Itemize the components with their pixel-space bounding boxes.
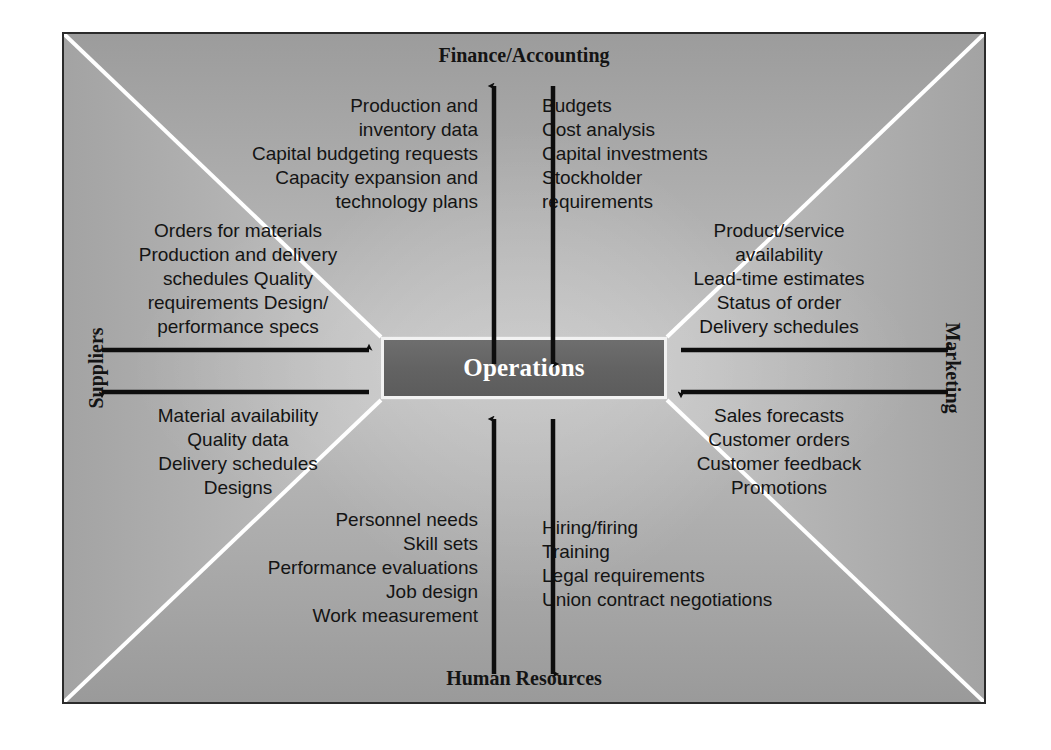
flow-text-marketing-to-operations: Sales forecasts Customer orders Customer… — [624, 404, 934, 500]
diagram-canvas: Operations Finance/Accounting Human Reso… — [0, 0, 1051, 750]
flow-text-suppliers-to-operations: Orders for materials Production and deli… — [90, 219, 386, 339]
flow-text-finance-to-operations: Budgets Cost analysis Capital investment… — [542, 94, 842, 214]
heading-human-resources: Human Resources — [64, 667, 984, 690]
operations-interfaces-diagram: Operations Finance/Accounting Human Reso… — [62, 32, 986, 704]
flow-text-hr-to-operations: Hiring/firing Training Legal requirement… — [542, 516, 872, 612]
heading-finance-accounting: Finance/Accounting — [64, 44, 984, 67]
flow-text-operations-to-marketing: Product/service availability Lead-time e… — [624, 219, 934, 339]
flow-text-operations-to-finance: Production and inventory data Capital bu… — [182, 94, 478, 214]
heading-marketing: Marketing — [941, 288, 964, 448]
flow-text-operations-to-suppliers: Material availability Quality data Deliv… — [90, 404, 386, 500]
flow-text-operations-to-hr: Personnel needs Skill sets Performance e… — [182, 508, 478, 628]
operations-center-box: Operations — [381, 337, 666, 400]
operations-label: Operations — [463, 354, 584, 382]
